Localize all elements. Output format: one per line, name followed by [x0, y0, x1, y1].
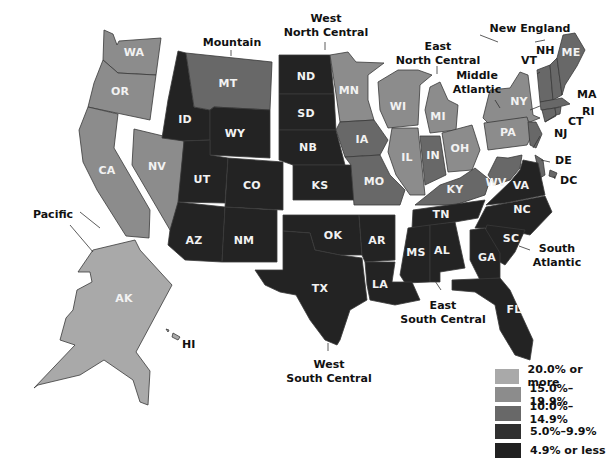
label-OH: OH: [451, 142, 470, 155]
label-MO: MO: [364, 175, 385, 188]
region-mountain-line1: Mountain: [203, 36, 261, 49]
region-pacific-line1: Pacific: [33, 208, 73, 221]
label-AK: AK: [115, 292, 132, 305]
region-wnc-line2: North Central: [284, 26, 368, 40]
legend-swatch: [495, 406, 521, 421]
label-OR: OR: [111, 85, 129, 98]
label-VA: VA: [513, 179, 530, 192]
region-ma-line2: Atlantic: [453, 83, 501, 97]
label-FL: FL: [507, 303, 522, 316]
legend-item: 10.0%–14.9%: [495, 404, 610, 423]
region-label-middle-atlantic: Middle Atlantic: [453, 69, 501, 97]
label-CA: CA: [99, 164, 116, 177]
region-label-south-atlantic: South Atlantic: [533, 242, 581, 270]
legend-swatch: [495, 424, 521, 439]
label-IN: IN: [426, 149, 440, 162]
label-NH: NH: [536, 44, 554, 57]
label-SC: SC: [503, 232, 519, 245]
label-NM: NM: [234, 234, 255, 247]
legend: 20.0% or more 15.0%–19.9% 10.0%–14.9% 5.…: [495, 367, 610, 460]
label-IL: IL: [401, 151, 413, 164]
label-NB: NB: [299, 141, 317, 154]
label-DE: DE: [555, 154, 572, 167]
label-VT: VT: [521, 54, 537, 67]
legend-label: 5.0%–9.9%: [530, 425, 597, 438]
label-ME: ME: [562, 46, 581, 59]
region-sa-line1: South: [533, 242, 581, 256]
region-esc-line2: South Central: [400, 313, 485, 327]
label-TX: TX: [312, 282, 328, 295]
label-MT: MT: [219, 77, 238, 90]
region-ne-line1: New England: [490, 22, 571, 35]
region-label-west-south-central: West South Central: [286, 358, 371, 386]
label-PA: PA: [500, 126, 516, 139]
label-KY: KY: [447, 183, 464, 196]
state-HI: [166, 329, 180, 340]
label-MN: MN: [339, 84, 360, 97]
label-WY: WY: [225, 127, 246, 140]
state-AZ: [168, 202, 225, 262]
legend-item: 5.0%–9.9%: [495, 423, 610, 442]
region-esc-line1: East: [400, 299, 485, 313]
legend-swatch: [495, 369, 519, 384]
legend-item: 4.9% or less: [495, 441, 610, 460]
region-label-west-north-central: West North Central: [284, 12, 368, 40]
state-DC: [549, 170, 557, 178]
state-ME: [557, 33, 585, 95]
state-RI: [555, 107, 561, 115]
region-sa-line2: Atlantic: [533, 256, 581, 270]
region-label-mountain: Mountain: [203, 36, 261, 50]
label-WA: WA: [124, 46, 145, 59]
region-wsc-line2: South Central: [286, 372, 371, 386]
label-GA: GA: [478, 251, 496, 264]
region-label-east-south-central: East South Central: [400, 299, 485, 327]
region-enc-line1: East: [396, 40, 480, 54]
label-NJ: NJ: [554, 127, 567, 140]
region-enc-line2: North Central: [396, 54, 480, 68]
label-IA: IA: [355, 133, 368, 146]
region-wnc-line1: West: [284, 12, 368, 26]
legend-swatch: [495, 443, 521, 458]
label-OK: OK: [324, 229, 342, 242]
label-LA: LA: [372, 278, 388, 291]
label-KS: KS: [312, 179, 329, 192]
label-NV: NV: [148, 160, 166, 173]
label-AL: AL: [434, 244, 450, 257]
label-MS: MS: [406, 246, 425, 259]
label-SD: SD: [297, 107, 314, 120]
state-AK: [34, 240, 172, 405]
legend-label: 10.0%–14.9%: [530, 400, 610, 426]
label-WI: WI: [390, 100, 407, 113]
label-NY: NY: [510, 95, 528, 108]
legend-swatch: [495, 387, 521, 402]
label-TN: TN: [432, 208, 449, 221]
region-wsc-line1: West: [286, 358, 371, 372]
label-AZ: AZ: [186, 234, 203, 247]
region-label-new-england: New England: [490, 22, 571, 36]
label-ND: ND: [297, 70, 316, 83]
label-HI: HI: [182, 338, 195, 351]
region-ma-line1: Middle: [453, 69, 501, 83]
label-UT: UT: [194, 173, 211, 186]
legend-label: 4.9% or less: [530, 444, 605, 457]
label-DC: DC: [560, 174, 577, 187]
label-WV: WV: [485, 176, 506, 189]
label-ID: ID: [178, 113, 192, 126]
label-CT: CT: [568, 115, 584, 128]
label-MA: MA: [577, 88, 596, 101]
region-label-east-north-central: East North Central: [396, 40, 480, 68]
label-AR: AR: [368, 234, 385, 247]
region-label-pacific: Pacific: [33, 208, 73, 222]
label-CO: CO: [243, 179, 261, 192]
label-NC: NC: [513, 203, 531, 216]
label-MI: MI: [430, 110, 445, 123]
